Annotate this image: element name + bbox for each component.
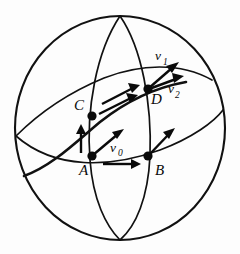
point-C-dot: [87, 111, 96, 120]
vector-a-up-head: [76, 124, 86, 134]
vector-ab-head: [131, 159, 141, 169]
vector-cd-upper-head: [128, 83, 140, 93]
point-A-dot: [87, 151, 96, 160]
vector-a-up: [76, 124, 86, 153]
vector-v1-label: v: [155, 48, 161, 63]
point-A-label: A: [78, 162, 89, 178]
sphere-outline: [15, 16, 225, 240]
point-A: A: [78, 151, 97, 178]
point-B: B: [143, 151, 164, 178]
figure-root: v 0 v: [0, 0, 240, 254]
meridian-right-front: [120, 16, 150, 240]
vector-b-shaft: [149, 134, 169, 155]
point-C: C: [74, 97, 97, 121]
sphere-diagram: v 0 v: [0, 0, 240, 254]
vector-v0: v 0: [93, 129, 124, 158]
vector-v2-subscript: 2: [175, 90, 180, 100]
tilted-circle-back: [16, 67, 212, 136]
vector-b: [149, 128, 175, 155]
vector-v1-subscript: 1: [163, 57, 168, 67]
point-B-label: B: [155, 162, 164, 178]
vector-v0-label: v: [110, 140, 116, 155]
vector-v0-subscript: 0: [118, 148, 123, 158]
point-C-label: C: [74, 97, 85, 113]
point-D-label: D: [150, 91, 162, 107]
vector-v2-label: v: [168, 81, 174, 96]
point-B-dot: [143, 151, 152, 160]
